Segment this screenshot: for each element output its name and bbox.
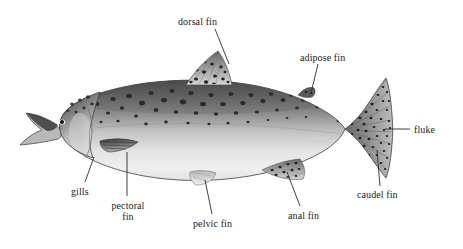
caudal-fin-shape (345, 78, 393, 180)
salmon-anatomy-diagram: dorsal finadipose finflukecaudel finanal… (0, 0, 463, 249)
dorsal-fin-shape (186, 51, 232, 86)
gill-plate (69, 113, 91, 151)
label-pectoral-fin: pectoralfin (105, 200, 151, 222)
label-adipose-fin: adipose fin (300, 52, 345, 63)
label-caudel-fin: caudel fin (357, 189, 398, 200)
adipose-fin-shape (298, 87, 315, 97)
pelvic-fin-shape (190, 171, 216, 185)
label-pectoral-fin-line-1: pectoral (105, 200, 151, 211)
fish-head (20, 92, 100, 158)
label-fluke: fluke (414, 124, 435, 135)
label-pelvic-fin: pelvic fin (193, 218, 232, 229)
label-anal-fin: anal fin (288, 210, 319, 221)
eye-pupil (60, 120, 64, 124)
label-pectoral-fin-line-2: fin (105, 211, 151, 222)
fish-illustration (0, 0, 463, 249)
label-gills: gills (71, 186, 89, 197)
label-dorsal-fin: dorsal fin (178, 16, 217, 27)
